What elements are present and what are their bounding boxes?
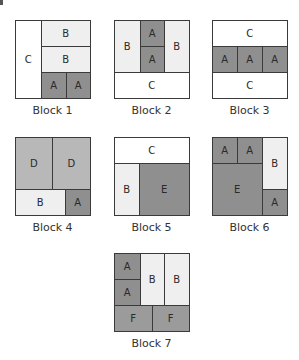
piece-a: A xyxy=(212,46,238,73)
piece-f: F xyxy=(114,305,153,332)
piece-a: A xyxy=(237,46,263,73)
piece-a: A xyxy=(140,20,165,47)
piece-b: B xyxy=(15,189,66,216)
piece-a: A xyxy=(41,72,67,99)
piece-a: A xyxy=(212,137,238,164)
piece-b: B xyxy=(114,163,140,216)
piece-a: A xyxy=(237,137,263,164)
piece-e: E xyxy=(139,163,190,216)
piece-c: C xyxy=(114,72,190,99)
piece-a: A xyxy=(65,189,91,216)
piece-b: B xyxy=(164,20,190,73)
corner-mark xyxy=(0,0,3,5)
piece-a: A xyxy=(114,279,141,306)
piece-b: B xyxy=(114,20,141,73)
piece-c: C xyxy=(15,20,42,99)
block-caption: Block 5 xyxy=(102,221,202,234)
block-caption: Block 2 xyxy=(102,104,202,117)
block-1: CBBAA xyxy=(15,20,90,98)
piece-b: B xyxy=(262,137,288,190)
piece-d: D xyxy=(52,137,91,190)
block-caption: Block 6 xyxy=(200,221,299,234)
block-7: AABBFF xyxy=(114,253,189,331)
piece-c: C xyxy=(212,72,288,99)
piece-a: A xyxy=(262,189,288,216)
piece-b: B xyxy=(41,20,91,47)
block-caption: Block 7 xyxy=(102,337,202,350)
block-caption: Block 4 xyxy=(3,221,103,234)
piece-c: C xyxy=(212,20,288,47)
block-3: CAAAC xyxy=(212,20,287,98)
piece-d: D xyxy=(15,137,53,190)
piece-c: C xyxy=(114,137,190,164)
block-6: AAEBA xyxy=(212,137,287,215)
block-caption: Block 1 xyxy=(3,104,103,117)
block-4: DDBA xyxy=(15,137,90,215)
piece-b: B xyxy=(140,253,165,306)
block-5: CBE xyxy=(114,137,189,215)
piece-a: A xyxy=(262,46,288,73)
piece-a: A xyxy=(114,253,141,280)
block-caption: Block 3 xyxy=(200,104,299,117)
piece-b: B xyxy=(164,253,190,306)
piece-b: B xyxy=(41,46,91,73)
piece-f: F xyxy=(152,305,190,332)
piece-a: A xyxy=(140,46,165,73)
piece-a: A xyxy=(66,72,91,99)
block-2: BAABC xyxy=(114,20,189,98)
piece-e: E xyxy=(212,163,263,216)
